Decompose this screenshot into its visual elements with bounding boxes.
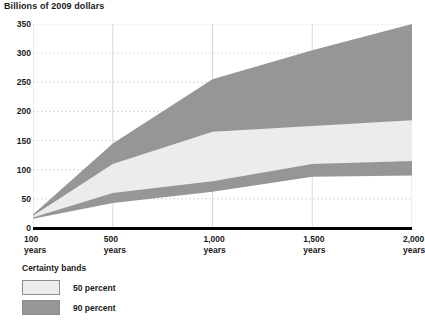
x-tick-label: 1,000years xyxy=(204,234,226,256)
y-tick-label: 250 xyxy=(0,78,31,87)
x-tick-label: 2,000years xyxy=(403,234,425,256)
x-tick-unit: years xyxy=(24,245,46,256)
x-axis-tick-labels: 100years500years1,000years1,500years2,00… xyxy=(0,234,412,260)
y-axis-title: Billions of 2009 dollars xyxy=(4,1,104,11)
x-tick-label: 1,500years xyxy=(303,234,325,256)
x-tick-unit: years xyxy=(104,245,126,256)
chart-legend: Certainty bands 50 percent90 percent xyxy=(22,263,252,320)
legend-item: 90 percent xyxy=(22,300,252,315)
x-tick-label: 100years xyxy=(24,234,46,256)
legend-items: 50 percent90 percent xyxy=(22,280,252,315)
y-axis-tick-labels: 350300250200150100500 xyxy=(0,24,412,228)
y-tick-label: 350 xyxy=(0,20,31,29)
x-tick-number: 2,000 xyxy=(403,234,425,245)
legend-swatch xyxy=(22,300,60,315)
legend-item: 50 percent xyxy=(22,280,252,295)
x-axis-line xyxy=(33,227,412,230)
x-tick-unit: years xyxy=(204,245,226,256)
legend-swatch xyxy=(22,280,60,295)
x-tick-number: 500 xyxy=(104,234,126,245)
x-tick-number: 100 xyxy=(24,234,46,245)
y-tick-label: 150 xyxy=(0,136,31,145)
y-tick-label: 200 xyxy=(0,107,31,116)
y-tick-label: 300 xyxy=(0,49,31,58)
x-tick-label: 500years xyxy=(104,234,126,256)
x-tick-unit: years xyxy=(303,245,325,256)
y-tick-label: 0 xyxy=(0,224,31,233)
x-tick-number: 1,500 xyxy=(303,234,325,245)
legend-label: 90 percent xyxy=(73,303,116,313)
y-tick-label: 50 xyxy=(0,195,31,204)
x-tick-unit: years xyxy=(403,245,425,256)
legend-label: 50 percent xyxy=(73,283,116,293)
x-tick-number: 1,000 xyxy=(204,234,226,245)
legend-title: Certainty bands xyxy=(22,263,252,273)
y-tick-label: 100 xyxy=(0,165,31,174)
